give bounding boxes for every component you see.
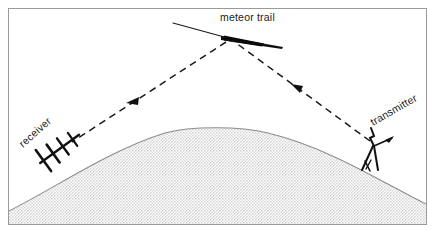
diagram-canvas: meteor trail receiver transmitter <box>0 0 435 233</box>
meteor-scatter-diagram: meteor trail receiver transmitter <box>0 0 435 233</box>
meteor-trail-label: meteor trail <box>220 11 275 23</box>
